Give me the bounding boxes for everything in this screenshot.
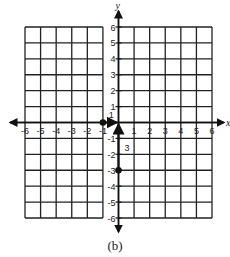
y-tick-label: 3: [110, 70, 115, 80]
y-tick-label: -2: [107, 150, 115, 160]
x-tick-label: -4: [52, 126, 60, 136]
x-tick-label: 2: [147, 126, 152, 136]
y-tick-label: -3: [107, 166, 115, 176]
y-tick-label: 4: [110, 54, 115, 64]
x-tick-label: 6: [209, 126, 214, 136]
x-tick-label: -3: [68, 126, 76, 136]
figure-caption: (b): [0, 238, 230, 254]
y-tick-label: 6: [110, 23, 115, 33]
y-axis-label: y: [115, 0, 121, 11]
y-tick-label: -1: [107, 134, 115, 144]
horizontal-translation-label: 1: [109, 110, 114, 120]
x-axis-label: x: [225, 117, 230, 128]
y-tick-label: -4: [107, 182, 115, 192]
data-point: [100, 119, 107, 126]
x-tick-label: 3: [163, 126, 168, 136]
axes: [10, 11, 224, 232]
y-tick-label: -6: [107, 214, 115, 224]
x-tick-label: -2: [83, 126, 91, 136]
y-tick-label: -5: [107, 198, 115, 208]
y-tick-label: 2: [110, 86, 115, 96]
x-tick-label: -5: [37, 126, 45, 136]
x-tick-label: -1: [99, 126, 107, 136]
x-tick-label: -6: [21, 126, 29, 136]
y-tick-label: 5: [110, 38, 115, 48]
coordinate-grid-chart: -6-5-4-3-2-10123456-6-5-4-3-2-1123456 13…: [0, 0, 230, 257]
data-point: [115, 167, 122, 174]
x-tick-label: 5: [194, 126, 199, 136]
x-tick-label: 1: [132, 126, 137, 136]
x-tick-label: 4: [178, 126, 183, 136]
vertical-translation-label: 3: [125, 143, 130, 153]
